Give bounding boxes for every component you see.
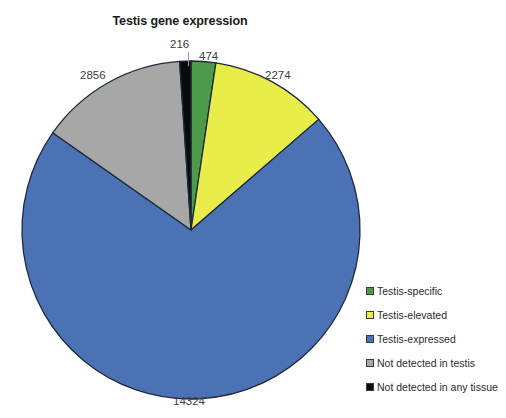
slice-value-testis-specific: 474: [199, 50, 218, 62]
legend-swatch-icon: [366, 359, 374, 367]
legend-label: Not detected in any tissue: [377, 381, 498, 393]
legend-swatch-icon: [366, 311, 374, 319]
slice-value-not-detected-any-tissue: 216: [170, 38, 189, 50]
legend-label: Testis-expressed: [377, 333, 456, 345]
slice-value-testis-elevated: 2274: [265, 69, 291, 81]
legend-item-not-detected-in-testis[interactable]: Not detected in testis: [366, 352, 506, 373]
leader-line-216: [188, 52, 189, 66]
legend-swatch-icon: [366, 287, 374, 295]
chart-page: Testis gene expression 216 474 2274 2856…: [0, 0, 506, 418]
legend-item-not-detected-in-any-tissue[interactable]: Not detected in any tissue: [366, 376, 506, 397]
legend-swatch-icon: [366, 335, 374, 343]
legend-label: Not detected in testis: [377, 357, 475, 369]
legend-item-testis-elevated[interactable]: Testis-elevated: [366, 304, 506, 325]
legend-label: Testis-elevated: [377, 309, 447, 321]
chart-legend: Testis-specific Testis-elevated Testis-e…: [366, 280, 506, 400]
pie-slices: [22, 61, 360, 399]
legend-label: Testis-specific: [377, 285, 442, 297]
slice-value-not-detected-testis: 2856: [80, 69, 106, 81]
legend-swatch-icon: [366, 383, 374, 391]
legend-item-testis-expressed[interactable]: Testis-expressed: [366, 328, 506, 349]
slice-value-testis-expressed: 14324: [173, 395, 205, 407]
legend-item-testis-specific[interactable]: Testis-specific: [366, 280, 506, 301]
